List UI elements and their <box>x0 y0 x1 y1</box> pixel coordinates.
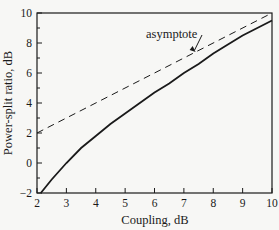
y-tick-label: 4 <box>26 97 32 109</box>
y-axis-ticks: −20246810 <box>20 7 42 199</box>
x-axis-ticks: 2345678910 <box>34 188 278 209</box>
x-tick-label: 8 <box>210 197 216 209</box>
y-tick-label: 10 <box>21 7 33 19</box>
x-tick-label: 6 <box>152 197 158 209</box>
y-tick-label: 6 <box>26 67 32 79</box>
x-axis-label: Coupling, dB <box>121 213 188 227</box>
chart: 2345678910 −20246810 asymptote Coupling,… <box>0 0 279 230</box>
x-tick-label: 4 <box>93 197 99 209</box>
power-split-curve <box>41 21 272 194</box>
y-axis-label: Power-split ratio, dB <box>1 51 15 155</box>
asymptote-annotation: asymptote <box>146 27 198 41</box>
y-tick-label: 8 <box>26 37 32 49</box>
x-tick-label: 9 <box>240 197 246 209</box>
x-tick-label: 10 <box>266 197 278 209</box>
y-tick-label: 0 <box>26 157 32 169</box>
x-tick-label: 7 <box>181 197 187 209</box>
x-tick-label: 2 <box>34 197 40 209</box>
annotations: asymptote <box>146 27 202 52</box>
y-tick-label: 2 <box>26 127 32 139</box>
x-tick-label: 3 <box>64 197 70 209</box>
x-tick-label: 5 <box>122 197 128 209</box>
y-tick-label: −2 <box>20 187 32 199</box>
